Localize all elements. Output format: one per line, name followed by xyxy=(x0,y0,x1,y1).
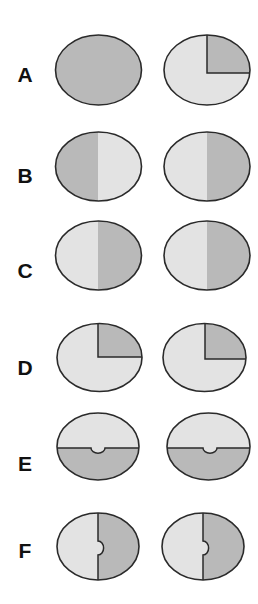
dark-quadrant xyxy=(98,322,144,358)
row-b: B xyxy=(17,130,252,203)
ellipse-right xyxy=(161,322,248,394)
row-label: A xyxy=(17,63,32,86)
ellipse-left xyxy=(54,33,144,107)
ellipse-left xyxy=(55,511,141,582)
ellipse-left xyxy=(55,411,141,482)
ellipse-left xyxy=(54,130,144,203)
right-half xyxy=(207,219,252,292)
dark-fill xyxy=(54,33,144,107)
row-label: C xyxy=(17,259,32,282)
row-label: D xyxy=(17,356,32,379)
left-half xyxy=(54,219,99,292)
ellipse-right xyxy=(160,511,246,582)
row-e: E xyxy=(18,411,252,482)
ellipse-right xyxy=(162,33,252,107)
dark-right-half xyxy=(98,511,141,582)
row-a: A xyxy=(17,33,252,107)
ellipse-right xyxy=(162,130,252,203)
right-half xyxy=(98,130,144,203)
left-half xyxy=(162,219,207,292)
row-c: C xyxy=(17,219,252,292)
right-half xyxy=(207,130,252,203)
dark-quadrant xyxy=(205,322,248,360)
row-label: F xyxy=(19,539,32,562)
rows-group: ABCDEF xyxy=(17,33,252,582)
row-label: B xyxy=(17,164,32,187)
right-half xyxy=(98,219,144,292)
dark-right-half xyxy=(203,511,246,582)
ellipse-left xyxy=(55,322,144,394)
ellipse-left xyxy=(54,219,144,292)
row-d: D xyxy=(17,322,248,394)
row-f: F xyxy=(19,511,246,582)
ellipse-right xyxy=(165,411,252,482)
ellipse-right xyxy=(162,219,252,292)
left-half xyxy=(54,130,99,203)
left-half xyxy=(162,130,207,203)
row-label: E xyxy=(18,452,32,475)
ellipse-pattern-figure: ABCDEF xyxy=(0,0,258,604)
